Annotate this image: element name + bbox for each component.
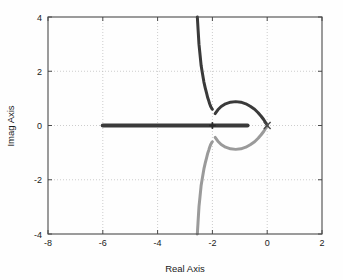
- y-tick-label: 4: [37, 13, 42, 23]
- axis-tick-labels: -8-6-4-202-4-2024: [34, 13, 325, 249]
- x-tick-label: 0: [265, 238, 270, 248]
- x-tick-label: -8: [44, 238, 52, 248]
- locus-asymptotic-branch-upper: [197, 17, 212, 109]
- x-tick-label: -6: [99, 238, 107, 248]
- locus-circular-loop-upper: [215, 102, 267, 126]
- x-tick-label: -4: [154, 238, 162, 248]
- locus-curves: [103, 17, 267, 234]
- locus-circular-loop-lower: [215, 126, 267, 150]
- y-tick-label: -2: [34, 175, 42, 185]
- locus-asymptotic-branch-lower: [197, 142, 212, 234]
- plot-canvas: -8-6-4-202-4-2024 Real Axis Imag Axis: [0, 0, 343, 280]
- y-tick-label: 2: [37, 67, 42, 77]
- y-axis-title: Imag Axis: [5, 105, 16, 146]
- root-locus-figure: -8-6-4-202-4-2024 Real Axis Imag Axis: [0, 0, 343, 280]
- x-tick-label: -2: [208, 238, 216, 248]
- y-tick-label: -4: [34, 230, 42, 240]
- y-tick-label: 0: [37, 121, 42, 131]
- x-axis-title: Real Axis: [165, 263, 205, 274]
- x-tick-label: 2: [319, 238, 324, 248]
